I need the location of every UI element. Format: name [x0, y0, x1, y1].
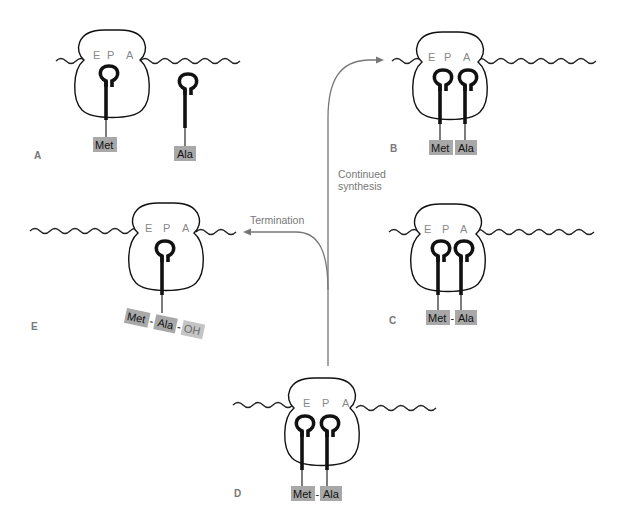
- peptide-bond: -: [316, 488, 320, 500]
- panel-label-e: E: [31, 321, 38, 332]
- trna-ala: [179, 74, 196, 146]
- site-e-label: E: [303, 397, 310, 409]
- translation-diagram: E P A Met Ala A E P A Met Ala B E P A Me…: [0, 0, 632, 516]
- site-e-label: E: [428, 51, 435, 63]
- panel-a: E P A Met Ala A: [34, 30, 240, 161]
- met-label: Met: [95, 139, 113, 151]
- site-e-label: E: [145, 222, 152, 234]
- met-label: Met: [293, 488, 311, 500]
- site-e-label: E: [93, 49, 100, 61]
- site-a-label: A: [463, 51, 471, 63]
- continued-synthesis-label-line2: synthesis: [338, 180, 382, 192]
- termination-label: Termination: [250, 214, 304, 226]
- site-p-label: P: [163, 222, 170, 234]
- site-a-label: A: [182, 222, 190, 234]
- ala-label: Ala: [458, 312, 475, 324]
- arrowhead-icon: [243, 229, 251, 236]
- ala-label: Ala: [177, 148, 194, 160]
- met-label: Met: [428, 312, 446, 324]
- site-p-label: P: [322, 397, 329, 409]
- ribosome: [129, 203, 204, 291]
- panel-label-b: B: [390, 143, 397, 154]
- site-p-label: P: [107, 49, 114, 61]
- arrowhead-icon: [376, 57, 384, 64]
- site-p-label: P: [444, 51, 451, 63]
- site-a-label: A: [342, 397, 350, 409]
- arrow-continued-synthesis: Continued synthesis: [328, 57, 386, 367]
- released-peptide: Met - Ala - OH: [124, 308, 205, 339]
- ala-label: Ala: [323, 488, 340, 500]
- peptide-bond: -: [451, 312, 455, 324]
- met-label: Met: [431, 142, 449, 154]
- ribosome: [75, 30, 150, 118]
- site-p-label: P: [442, 223, 449, 235]
- panel-d: E P A Met - Ala D: [233, 378, 436, 501]
- arrow-termination: Termination: [243, 214, 328, 290]
- ala-label: Ala: [458, 142, 475, 154]
- panel-label-d: D: [234, 488, 241, 499]
- panel-e: E P A Met - Ala - OH E: [30, 203, 236, 339]
- mrna-strand: [30, 229, 236, 235]
- panel-b: E P A Met Ala B: [390, 32, 596, 155]
- site-a-label: A: [460, 223, 468, 235]
- site-a-label: A: [126, 49, 134, 61]
- continued-synthesis-label-line1: Continued: [338, 168, 386, 180]
- panel-label-a: A: [34, 150, 41, 161]
- site-e-label: E: [424, 223, 431, 235]
- panel-label-c: C: [389, 315, 396, 326]
- panel-c: E P A Met - Ala C: [389, 204, 594, 326]
